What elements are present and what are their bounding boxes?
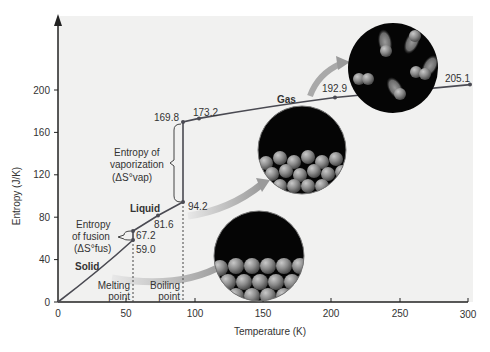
fusion-bracket [118, 231, 131, 240]
data-label: 94.2 [188, 201, 208, 212]
data-label: 192.9 [322, 83, 347, 94]
y-tick-label: 80 [39, 212, 51, 223]
boiling-point-label-line2: point [158, 291, 180, 302]
y-ticks: 0 40 80 120 160 200 [33, 85, 58, 308]
y-axis-title: Entropy (J/K) [11, 167, 22, 225]
y-tick-label: 200 [33, 85, 50, 96]
boiling-point-label-line1: Boiling [150, 280, 180, 291]
fusion-label-line1: Entropy [76, 219, 110, 230]
x-tick-label: 250 [392, 308, 409, 319]
y-tick-label: 40 [39, 254, 51, 265]
vap-label-line2: vaporization [110, 159, 164, 170]
x-tick-label: 100 [187, 308, 204, 319]
data-label: 169.8 [154, 112, 179, 123]
phase-label-gas: Gas [277, 94, 296, 105]
x-tick-label: 150 [255, 308, 272, 319]
vap-label-line3: (ΔS°vap) [112, 172, 152, 183]
x-tick-label: 300 [460, 309, 477, 320]
gas-arrowhead-icon [336, 56, 350, 70]
x-axis-title: Temperature (K) [234, 326, 306, 337]
phase-label-liquid: Liquid [130, 203, 160, 214]
data-label: 59.0 [136, 244, 156, 255]
x-tick-label: 0 [55, 308, 61, 319]
vaporization-bracket [170, 124, 181, 202]
entropy-chart: 0 40 80 120 160 200 0 50 100 150 200 250… [0, 0, 490, 352]
y-tick-label: 160 [33, 127, 50, 138]
y-tick-label: 0 [44, 297, 50, 308]
liquid-molecule-illustration [258, 106, 349, 194]
data-label: 81.6 [154, 219, 174, 230]
vap-label-line1: Entropy of [114, 147, 160, 158]
data-label: 205.1 [445, 73, 470, 84]
melting-point-label-line1: Melting [98, 280, 130, 291]
fusion-label-line3: (ΔS°fus) [74, 243, 111, 254]
data-label: 67.2 [136, 230, 156, 241]
y-tick-label: 120 [33, 169, 50, 180]
x-tick-label: 200 [323, 308, 340, 319]
solid-molecule-illustration [212, 211, 308, 304]
melting-point-label-line2: point [108, 291, 130, 302]
fusion-label-line2: of fusion [72, 231, 110, 242]
y-axis-arrow-icon [54, 14, 62, 26]
phase-label-solid: Solid [75, 261, 99, 272]
data-label: 173.2 [193, 107, 218, 118]
gas-molecule-illustration [348, 23, 442, 113]
x-tick-label: 50 [120, 308, 132, 319]
